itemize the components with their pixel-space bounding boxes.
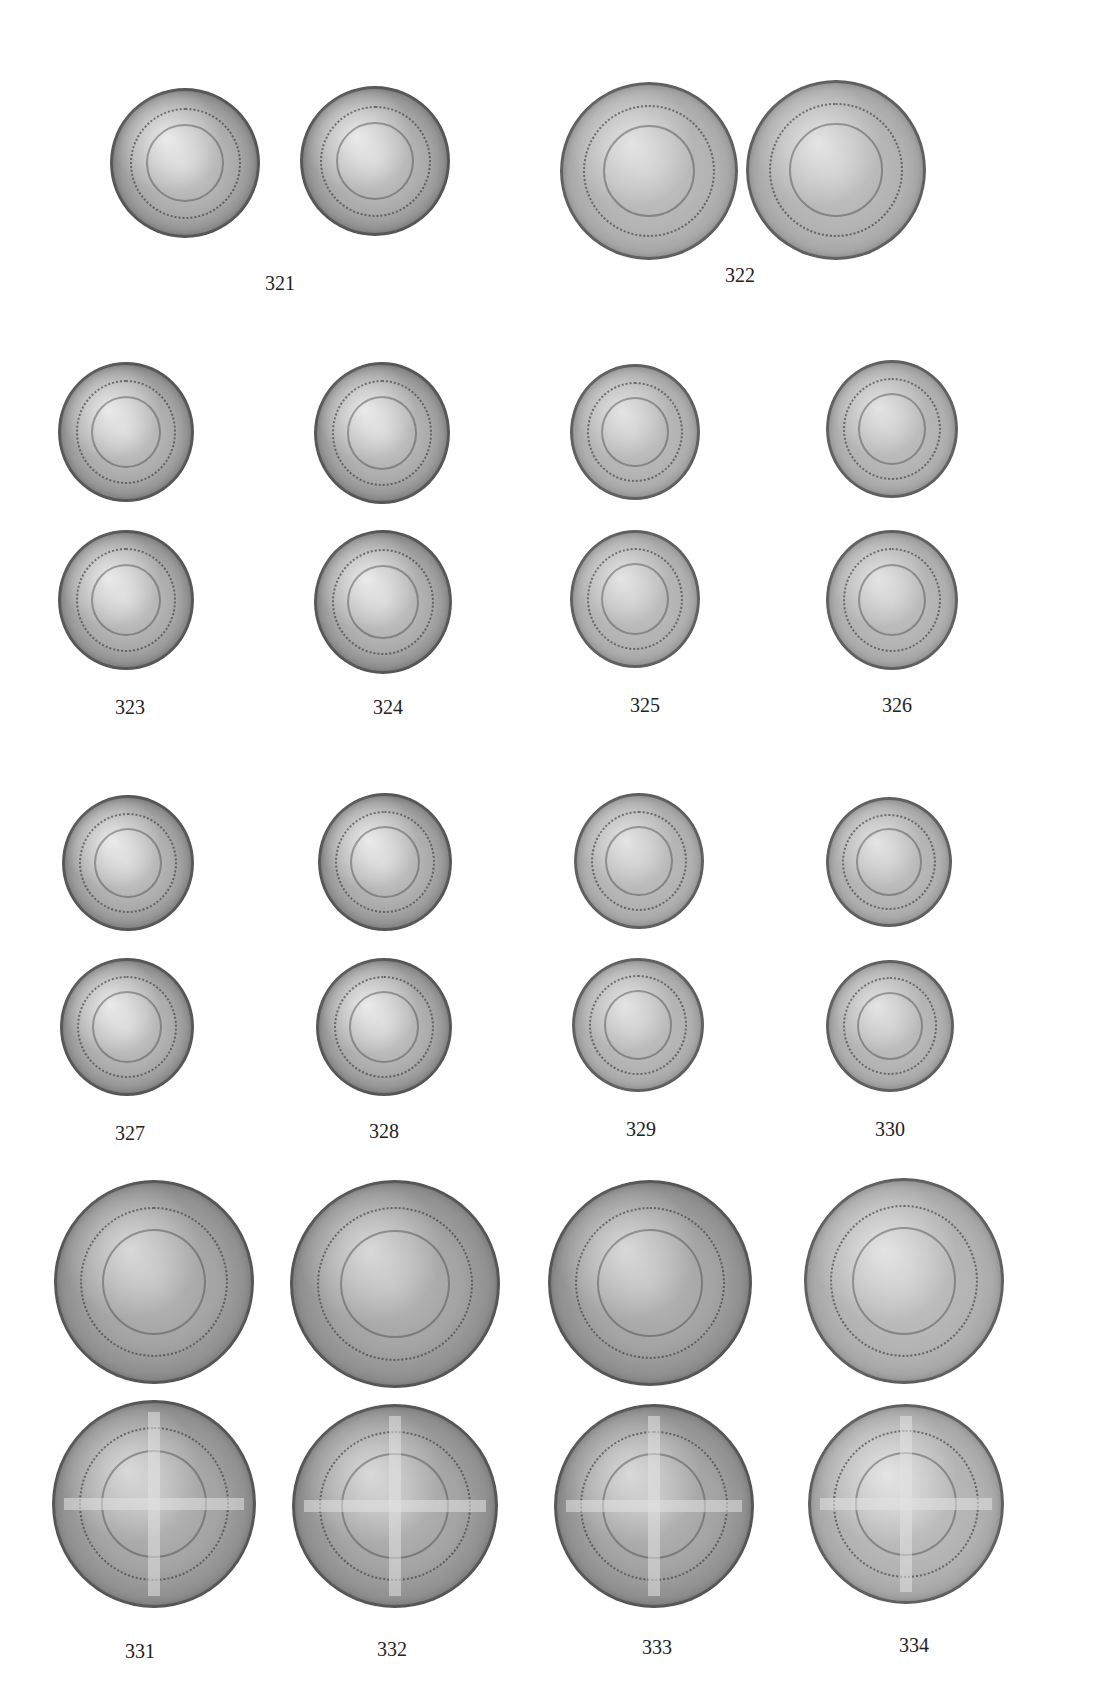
coin-323-reverse bbox=[58, 530, 194, 670]
coin-number-label: 328 bbox=[344, 1120, 424, 1143]
coin-number-label: 323 bbox=[90, 696, 170, 719]
coin-333-reverse bbox=[554, 1404, 754, 1608]
coin-number-label: 334 bbox=[874, 1634, 954, 1657]
coin-327-reverse bbox=[60, 958, 194, 1096]
coin-323-obverse bbox=[58, 362, 194, 502]
coin-322-reverse bbox=[746, 80, 926, 260]
coin-328-obverse bbox=[318, 793, 452, 931]
coin-number-label: 330 bbox=[850, 1118, 930, 1141]
coin-330-reverse bbox=[826, 960, 954, 1092]
coin-334-reverse bbox=[808, 1404, 1004, 1604]
coin-number-label: 325 bbox=[605, 694, 685, 717]
coin-332-reverse bbox=[292, 1404, 498, 1608]
coin-number-label: 322 bbox=[700, 264, 780, 287]
coin-325-obverse bbox=[570, 364, 700, 500]
coin-334-obverse bbox=[804, 1178, 1004, 1384]
coin-number-label: 331 bbox=[100, 1640, 180, 1663]
coin-330-obverse bbox=[826, 797, 952, 927]
coin-number-label: 321 bbox=[240, 272, 320, 295]
coin-331-reverse bbox=[52, 1400, 256, 1608]
coin-number-label: 324 bbox=[348, 696, 428, 719]
coin-332-obverse bbox=[290, 1180, 500, 1388]
coin-number-label: 332 bbox=[352, 1638, 432, 1661]
coin-number-label: 326 bbox=[857, 694, 937, 717]
coin-326-reverse bbox=[826, 530, 958, 670]
coin-322-obverse bbox=[560, 82, 738, 260]
coin-324-reverse bbox=[314, 530, 452, 674]
coin-327-obverse bbox=[62, 795, 194, 931]
coin-325-reverse bbox=[570, 530, 700, 668]
coin-333-obverse bbox=[548, 1180, 752, 1386]
coin-321-reverse bbox=[300, 86, 450, 236]
coin-321-obverse bbox=[110, 88, 260, 238]
coin-326-obverse bbox=[826, 360, 958, 498]
coin-329-obverse bbox=[574, 793, 704, 929]
coin-number-label: 333 bbox=[617, 1636, 697, 1659]
coin-329-reverse bbox=[572, 958, 704, 1092]
coin-number-label: 329 bbox=[601, 1118, 681, 1141]
coin-324-obverse bbox=[314, 362, 450, 504]
coin-331-obverse bbox=[54, 1180, 254, 1384]
coin-number-label: 327 bbox=[90, 1122, 170, 1145]
coin-328-reverse bbox=[316, 958, 452, 1096]
